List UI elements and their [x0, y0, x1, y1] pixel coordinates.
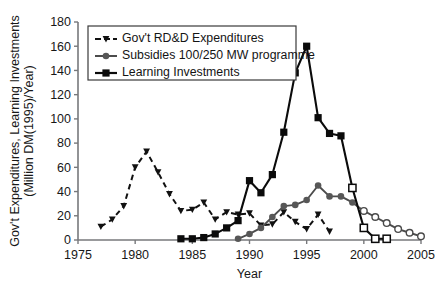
- data-point: [326, 130, 333, 137]
- x-tick-label: 2005: [407, 248, 435, 262]
- data-point: [349, 199, 356, 206]
- line-chart: 0204060801001201401601801975198019851990…: [0, 0, 445, 286]
- data-point: [292, 202, 299, 209]
- data-point: [166, 191, 173, 197]
- data-point: [257, 189, 264, 196]
- y-tick-label: 40: [57, 185, 71, 199]
- data-point: [372, 235, 379, 242]
- data-point: [97, 224, 104, 230]
- data-point: [349, 184, 356, 191]
- y-tick-label: 60: [57, 161, 71, 175]
- x-tick-label: 2000: [350, 248, 378, 262]
- data-point: [361, 208, 368, 215]
- x-tick-label: 1995: [293, 248, 321, 262]
- data-point: [360, 224, 367, 231]
- chart-container: 0204060801001201401601801975198019851990…: [0, 0, 445, 286]
- data-point: [269, 221, 276, 227]
- y-axis-title-line2: (Million DM(1995)/Year): [22, 65, 36, 197]
- data-point: [326, 229, 333, 235]
- y-tick-label: 140: [50, 64, 71, 78]
- data-point: [246, 231, 253, 238]
- data-point: [269, 171, 276, 178]
- x-tick-label: 1990: [236, 248, 264, 262]
- y-tick-label: 160: [50, 40, 71, 54]
- y-tick-label: 180: [50, 15, 71, 29]
- y-tick-label: 80: [57, 136, 71, 150]
- data-point: [178, 208, 185, 214]
- data-point: [103, 53, 110, 60]
- x-tick-label: 1980: [121, 248, 149, 262]
- data-point: [372, 214, 379, 221]
- y-tick-label: 0: [64, 233, 71, 247]
- data-point: [406, 229, 413, 236]
- legend-label: Gov't RD&D Expenditures: [122, 31, 264, 45]
- data-point: [212, 230, 219, 237]
- data-point: [235, 235, 242, 242]
- y-axis-title-line1: Gov't Expenditures, Learning Investments: [8, 15, 22, 247]
- data-point: [189, 235, 196, 242]
- data-point: [418, 233, 425, 240]
- data-point: [269, 214, 276, 221]
- data-point: [338, 193, 345, 200]
- data-point: [281, 203, 288, 210]
- data-point: [102, 69, 109, 76]
- x-axis-title: Year: [237, 267, 262, 281]
- data-point: [132, 164, 139, 170]
- chart-legend: Gov't RD&D ExpendituresSubsidies 100/250…: [88, 26, 315, 80]
- data-point: [315, 182, 322, 189]
- data-point: [337, 132, 344, 139]
- data-point: [120, 203, 127, 209]
- data-point: [303, 226, 310, 232]
- data-point: [383, 220, 390, 227]
- data-point: [234, 217, 241, 224]
- data-point: [326, 193, 333, 200]
- legend-label: Learning Investments: [122, 65, 240, 79]
- legend-label: Subsidies 100/250 MW programme: [122, 48, 315, 62]
- data-point: [200, 234, 207, 241]
- series-0: [97, 149, 332, 235]
- data-point: [246, 177, 253, 184]
- data-point: [212, 216, 219, 222]
- y-tick-label: 120: [50, 88, 71, 102]
- y-tick-label: 100: [50, 112, 71, 126]
- data-point: [280, 129, 287, 136]
- data-point: [395, 226, 402, 233]
- data-point: [177, 235, 184, 242]
- data-point: [223, 224, 230, 231]
- data-point: [303, 197, 310, 204]
- x-tick-label: 1985: [178, 248, 206, 262]
- data-point: [383, 235, 390, 242]
- data-point: [258, 225, 265, 232]
- x-tick-label: 1975: [64, 248, 92, 262]
- legend-item-1: Subsidies 100/250 MW programme: [95, 48, 315, 62]
- data-point: [315, 114, 322, 121]
- y-tick-label: 20: [57, 209, 71, 223]
